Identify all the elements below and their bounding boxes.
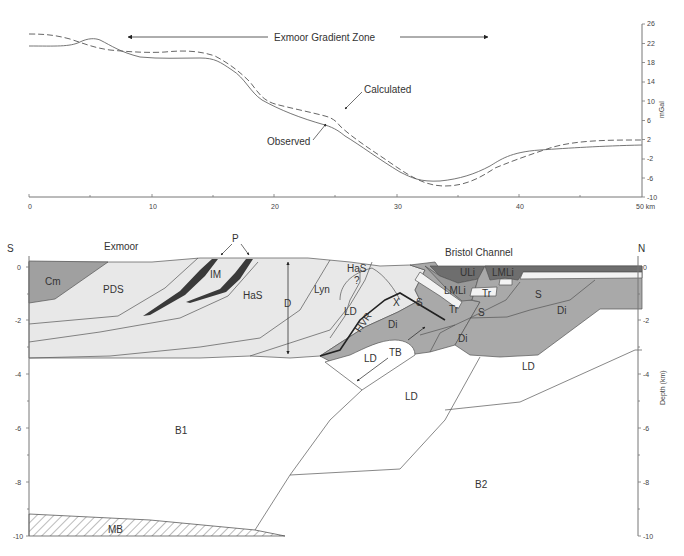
- y-tick-6: 6: [647, 117, 651, 124]
- y-tick-14: 14: [647, 78, 655, 85]
- mgal-axis-label: mGal: [658, 101, 665, 118]
- north-label: N: [638, 243, 645, 254]
- label-uli: ULi: [460, 267, 475, 278]
- label-ld-2: LD: [364, 353, 377, 364]
- label-b2: B2: [475, 479, 488, 490]
- basement-boundaries: [255, 350, 642, 530]
- exmoor-label: Exmoor: [104, 241, 139, 252]
- y-tick-neg6: -6: [647, 175, 653, 182]
- right-tick-neg2: -2: [643, 317, 649, 324]
- x-tick-30: 30: [394, 203, 402, 210]
- observed-line: [29, 39, 642, 181]
- y-tick-neg2: -2: [647, 155, 653, 162]
- label-has-2: HaS: [347, 263, 367, 274]
- label-lyn: Lyn: [314, 284, 330, 295]
- x-tick-50: 50 km: [636, 203, 655, 210]
- label-im: IM: [210, 269, 221, 280]
- label-mb: MB: [108, 524, 123, 535]
- figure: Exmoor Gradient Zone Calculated Observed…: [0, 0, 684, 556]
- label-lmli-1: LMLi: [444, 285, 466, 296]
- right-tick-0: 0: [643, 264, 647, 271]
- left-tick-neg6: -6: [15, 425, 21, 432]
- left-tick-neg4: -4: [15, 371, 21, 378]
- depth-axis-label: Depth (km): [659, 370, 667, 405]
- label-di-1: Di: [388, 319, 397, 330]
- south-label: S: [7, 243, 14, 254]
- left-tick-neg8: -8: [15, 479, 21, 486]
- zone-label: Exmoor Gradient Zone: [274, 32, 376, 43]
- label-p: P: [232, 233, 239, 244]
- calculated-label: Calculated: [364, 84, 411, 95]
- calculated-arrow: [345, 92, 362, 109]
- x-tick-20: 20: [271, 203, 279, 210]
- label-di-2: Di: [458, 333, 467, 344]
- left-tick-neg2: -2: [15, 317, 21, 324]
- x-tick-10: 10: [149, 203, 157, 210]
- label-s-2: S: [478, 307, 485, 318]
- label-di-3: Di: [557, 305, 566, 316]
- label-ld-4: LD: [522, 361, 535, 372]
- left-tick-0: 0: [17, 264, 21, 271]
- label-tr-1: Tr: [449, 304, 459, 315]
- y-tick-10: 10: [647, 98, 655, 105]
- observed-label: Observed: [267, 136, 310, 147]
- unit-tr-strip: [520, 272, 642, 279]
- right-tick-neg6: -6: [643, 425, 649, 432]
- label-b1: B1: [175, 425, 188, 436]
- p-arrow-1: [221, 244, 232, 255]
- label-ld-1: LD: [344, 306, 357, 317]
- gravity-chart: Exmoor Gradient Zone Calculated Observed…: [28, 20, 665, 210]
- y-tick-2: 2: [647, 136, 651, 143]
- p-arrow-2: [241, 244, 249, 255]
- label-question: ?: [354, 275, 360, 286]
- label-s-1: S: [416, 297, 423, 308]
- unit-mb: [29, 514, 285, 536]
- right-tick-neg10: -10: [643, 533, 653, 540]
- label-x: X: [393, 297, 400, 308]
- right-tick-neg8: -8: [643, 479, 649, 486]
- left-tick-neg10: -10: [13, 533, 23, 540]
- bristol-channel-label: Bristol Channel: [445, 247, 513, 258]
- cross-section: Exmoor Bristol Channel S N Cm PDS IM HaS…: [7, 233, 667, 540]
- y-tick-neg10: -10: [647, 194, 657, 201]
- label-d: D: [284, 298, 291, 309]
- label-has-1: HaS: [243, 290, 263, 301]
- calculated-line: [29, 34, 642, 186]
- y-tick-18: 18: [647, 59, 655, 66]
- y-tick-22: 22: [647, 40, 655, 47]
- right-tick-neg4: -4: [643, 371, 649, 378]
- label-lmli-2: LMLi: [492, 267, 514, 278]
- x-tick-40: 40: [516, 203, 524, 210]
- x-tick-0: 0: [28, 203, 32, 210]
- label-s-3: S: [535, 289, 542, 300]
- observed-arrow: [313, 124, 326, 140]
- label-cm: Cm: [45, 276, 61, 287]
- unit-tr-3: [499, 279, 512, 285]
- label-tr-2: Tr: [482, 288, 492, 299]
- y-tick-26: 26: [647, 20, 655, 27]
- label-ld-3: LD: [405, 391, 418, 402]
- label-pds: PDS: [103, 284, 124, 295]
- label-tb: TB: [389, 347, 402, 358]
